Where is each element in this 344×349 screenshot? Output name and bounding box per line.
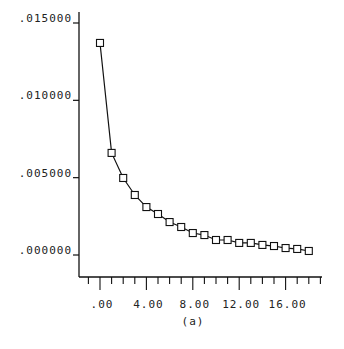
square-marker — [120, 174, 127, 181]
chart: .000000.005000.010000.015000.004.008.001… — [0, 0, 344, 349]
square-marker — [108, 149, 115, 156]
square-marker — [236, 239, 243, 246]
square-marker — [247, 239, 254, 246]
x-tick-label: 12.00 — [222, 298, 260, 311]
caption: (a) — [182, 315, 205, 328]
square-marker — [178, 224, 185, 231]
data-line — [100, 43, 309, 251]
square-marker — [224, 236, 231, 243]
y-tick-label: .005000 — [19, 167, 72, 180]
y-tick-label: .010000 — [19, 89, 72, 102]
square-marker — [213, 236, 220, 243]
line-chart: .000000.005000.010000.015000.004.008.001… — [0, 0, 344, 349]
square-marker — [282, 245, 289, 252]
square-marker — [155, 211, 162, 218]
square-marker — [131, 191, 138, 198]
y-tick-label: .015000 — [19, 12, 72, 25]
x-tick-label: 8.00 — [180, 298, 211, 311]
square-marker — [259, 241, 266, 248]
square-marker — [97, 39, 104, 46]
x-tick-label: 16.00 — [269, 298, 307, 311]
square-marker — [271, 243, 278, 250]
square-marker — [305, 247, 312, 254]
square-marker — [143, 204, 150, 211]
square-marker — [166, 219, 173, 226]
x-tick-label: 4.00 — [133, 298, 164, 311]
square-marker — [294, 245, 301, 252]
y-tick-label: .000000 — [19, 244, 72, 257]
x-tick-label: .00 — [91, 298, 114, 311]
square-marker — [189, 230, 196, 237]
square-marker — [201, 232, 208, 239]
